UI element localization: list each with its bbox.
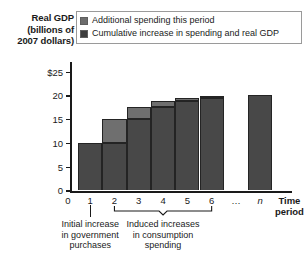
bar-segment-cumulative-5 (175, 101, 199, 190)
y-axis-title-line-1: Real GDP (2, 12, 74, 24)
y-tick-label-0: 0 (29, 186, 63, 196)
legend-label-additional-spending: Additional spending this period (92, 15, 215, 26)
legend-swatch-cumulative-increase-icon (80, 30, 88, 38)
bar-segment-cumulative-3 (127, 119, 151, 190)
y-tick-5 (66, 167, 70, 168)
y-axis-line (70, 62, 72, 192)
bar-segment-additional-6 (200, 96, 224, 98)
y-tick-label-25: $25 (29, 67, 63, 77)
x-tick-label-ellipsis: … (231, 196, 241, 206)
x-axis-title: Timeperiod (275, 195, 304, 217)
annotation-initial-increase: Initial increase in government purchases (61, 219, 119, 251)
annotation-initial-line-2: in government (61, 230, 119, 241)
plot-area: 05101520$25 123456…n0 Timeperiod (70, 62, 292, 192)
annotation-induced-line-3: spending (127, 240, 200, 251)
x-tick-label-2: 2 (112, 196, 117, 206)
x-tick-label-6: 6 (209, 196, 214, 206)
chart-figure: Real GDP (billions of 2007 dollars) Addi… (0, 0, 306, 266)
bar-segment-additional-4 (151, 101, 175, 107)
bar-segment-cumulative-2 (102, 143, 126, 191)
bar-segment-cumulative-6 (200, 98, 224, 190)
y-tick-15 (66, 119, 70, 120)
legend-swatch-additional-spending-icon (80, 17, 88, 25)
y-tick-25 (66, 72, 70, 73)
legend-item-cumulative-increase: Cumulative increase in spending and real… (80, 27, 298, 40)
y-tick-label-10: 10 (29, 138, 63, 148)
bar-period-1 (78, 143, 102, 191)
chart-legend: Additional spending this period Cumulati… (76, 11, 302, 44)
initial-increase-pointer (90, 205, 91, 217)
bar-period-3 (127, 107, 151, 190)
bar-segment-additional-5 (175, 98, 199, 101)
annotation-induced-increases: Induced increases in consumption spendin… (127, 219, 200, 251)
bar-segment-additional-3 (127, 107, 151, 119)
bar-segment-additional-2 (102, 119, 126, 143)
annotation-initial-line-1: Initial increase (61, 219, 119, 230)
y-tick-20 (66, 95, 70, 96)
y-tick-label-15: 15 (29, 115, 63, 125)
x-axis-title-word: period (275, 206, 304, 217)
x-tick-label-3: 3 (136, 196, 141, 206)
y-tick-0 (66, 190, 70, 191)
y-axis-title-line-3: 2007 dollars) (2, 35, 74, 47)
annotation-induced-line-2: in consumption (127, 230, 200, 241)
y-axis-title-line-2: (billions of (2, 24, 74, 36)
x-tick-label-0: 0 (65, 196, 70, 206)
bar-period-6 (200, 97, 224, 191)
bar-segment-cumulative-4 (151, 107, 175, 190)
annotation-initial-line-3: purchases (61, 240, 119, 251)
legend-label-cumulative-increase: Cumulative increase in spending and real… (92, 28, 279, 39)
annotation-induced-line-1: Induced increases (127, 219, 200, 230)
x-axis-line (70, 191, 292, 193)
y-axis-title: Real GDP (billions of 2007 dollars) (2, 12, 74, 47)
bar-period-5 (175, 98, 199, 190)
bar-period-4 (151, 101, 175, 190)
bar-segment-cumulative-n (248, 95, 272, 190)
bar-period-n (248, 95, 272, 190)
x-tick-label-4: 4 (160, 196, 165, 206)
x-tick-label-5: 5 (185, 196, 190, 206)
y-tick-label-20: 20 (29, 91, 63, 101)
legend-item-additional-spending: Additional spending this period (80, 14, 298, 27)
bar-period-2 (102, 119, 126, 190)
x-tick-label-n: n (258, 196, 263, 206)
x-axis-title-word: Time (275, 195, 304, 206)
bar-segment-cumulative-1 (78, 143, 102, 191)
y-tick-label-5: 5 (29, 162, 63, 172)
y-tick-10 (66, 143, 70, 144)
